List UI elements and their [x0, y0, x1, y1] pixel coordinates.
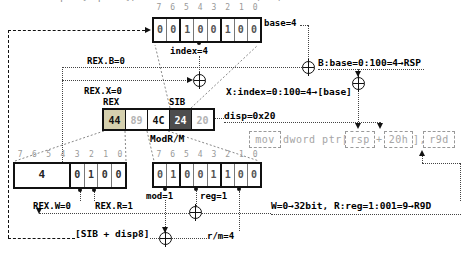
- disp-label: disp=0x20: [224, 110, 275, 121]
- base-label: base=4: [264, 18, 297, 28]
- modrm-bit-numbers: 76543210: [152, 150, 262, 159]
- disp-token: 20h: [384, 131, 413, 148]
- connector: [150, 238, 159, 239]
- connector: [8, 30, 9, 238]
- byte-disp: 20: [191, 110, 213, 129]
- index-label: index=4: [170, 46, 208, 56]
- connector: [62, 80, 186, 81]
- connector: [80, 191, 81, 201]
- rex-nibble: 4: [15, 164, 69, 187]
- mod-label: mod=1: [146, 191, 173, 201]
- connector: [94, 191, 95, 201]
- b-base-label: B:base=0:100=4→RSP: [318, 57, 421, 68]
- xor-icon: [159, 232, 172, 245]
- sib-disp-label: [SIB + disp8]: [75, 228, 149, 239]
- connector: [8, 238, 75, 239]
- rex-r-bit: 1: [84, 164, 98, 187]
- connector: [308, 25, 309, 61]
- connector: [300, 25, 308, 26]
- rm-label: r/m=4: [207, 231, 234, 241]
- connector: [318, 69, 424, 70]
- connector: [196, 191, 197, 206]
- arrowhead: [377, 123, 383, 129]
- connector: [202, 213, 271, 214]
- rex-b-label: REX.B=0: [87, 56, 125, 66]
- xor-icon: [193, 74, 206, 87]
- connector: [215, 118, 224, 119]
- r9d-token: r9d: [423, 131, 455, 148]
- arrowhead: [145, 27, 151, 33]
- rex-x-label: REX.X=0: [84, 86, 122, 96]
- x-index-label: X:index=0:100=4→[base]: [226, 86, 352, 97]
- sib-bit-box: 0 0 1 0 0 1 0 0: [152, 17, 262, 43]
- connector: [172, 238, 207, 239]
- xor-icon: [352, 77, 365, 90]
- sib-tag: SIB: [169, 97, 185, 107]
- arrowhead: [355, 123, 361, 129]
- byte-modrm: 4C: [147, 110, 169, 129]
- byte-rex: 44: [104, 110, 125, 129]
- arrowhead: [419, 150, 425, 156]
- xor-icon: [189, 206, 202, 219]
- rex-x-bit: 0: [97, 164, 111, 187]
- xor-icon: [302, 61, 315, 74]
- rex-w-bit: 0: [69, 164, 84, 187]
- plus-token: +: [376, 134, 383, 145]
- w-r-label: W=0→32bit, R:reg=1:001=9→R9D: [271, 200, 431, 211]
- connector: [62, 67, 63, 162]
- connector: [460, 163, 461, 201]
- connector: [39, 213, 189, 214]
- rex-bit-numbers: 76543210: [13, 150, 127, 159]
- instruction-encoding-diagram: mov dword ptr [rsp+20h], r9d = 44 89 4C …: [0, 0, 464, 253]
- rex-b-bit: 0: [111, 164, 125, 187]
- machine-code-bytes: 44 89 4C 24 20: [102, 108, 215, 131]
- modrm-bit-box: 0 1 0 0 1 1 0 0: [152, 162, 262, 188]
- dword-ptr-token: dword ptr[: [283, 134, 348, 145]
- reg-label: reg=1: [200, 191, 227, 201]
- rex-r-label: REX.R=1: [95, 201, 133, 211]
- rex-bit-box: 4 0 1 0 0: [13, 162, 127, 189]
- connector: [358, 90, 359, 122]
- connector: [271, 214, 461, 215]
- mov-token: mov: [249, 131, 281, 148]
- sib-bit-numbers: 76543210: [152, 3, 262, 12]
- connector: [422, 156, 423, 163]
- connector: [62, 67, 302, 68]
- rex-w-label: REX.W=0: [33, 201, 71, 211]
- byte-sib: 24: [169, 110, 191, 129]
- rsp-token: rsp: [345, 131, 375, 148]
- connector: [239, 191, 240, 231]
- modrm-tag: ModR/M: [150, 133, 184, 144]
- byte-opcode: 89: [125, 110, 147, 129]
- rex-tag: REX: [103, 97, 119, 107]
- connector: [8, 30, 145, 31]
- connector: [422, 163, 460, 164]
